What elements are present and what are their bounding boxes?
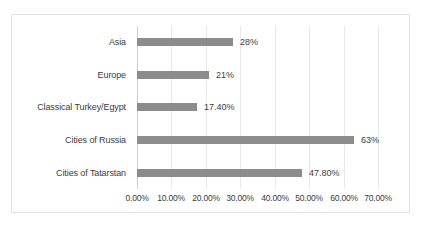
plot-area: 28% 21% 17.40% 63% 47.80% (137, 26, 378, 189)
bar-value-label: 17.40% (204, 102, 235, 112)
category-label: Cities of Russia (12, 124, 133, 157)
axis-tick-label: 20.00% (192, 193, 220, 203)
bar-value-label: 47.80% (309, 168, 340, 178)
category-label: Classical Turkey/Egypt (12, 91, 133, 124)
bar (137, 103, 197, 111)
category-label: Asia (12, 26, 133, 59)
axis-tick-label: 30.00% (226, 193, 254, 203)
bar-row: 63% (137, 124, 378, 157)
category-axis: Asia Europe Classical Turkey/Egypt Citie… (12, 26, 133, 189)
bar-value-label: 21% (216, 70, 234, 80)
axis-tick-label: 10.00% (157, 193, 185, 203)
category-label: Europe (12, 59, 133, 92)
axis-tick-label: 70.00% (364, 193, 392, 203)
gridline (378, 26, 379, 189)
bar (137, 38, 233, 46)
bar-value-label: 28% (240, 37, 258, 47)
axis-tick-label: 50.00% (295, 193, 323, 203)
bar (137, 71, 209, 79)
bar-value-label: 63% (361, 135, 379, 145)
value-axis: 0.00%10.00%20.00%30.00%40.00%50.00%60.00… (137, 193, 378, 207)
chart-plot-wrapper: Asia Europe Classical Turkey/Egypt Citie… (12, 15, 409, 212)
bar-row: 47.80% (137, 156, 378, 189)
bar-row: 17.40% (137, 91, 378, 124)
bar-row: 28% (137, 26, 378, 59)
axis-tick-label: 0.00% (125, 193, 148, 203)
bar-row: 21% (137, 59, 378, 92)
chart-frame: Asia Europe Classical Turkey/Egypt Citie… (11, 14, 410, 213)
axis-tick-label: 60.00% (330, 193, 358, 203)
axis-tick-label: 40.00% (261, 193, 289, 203)
bar-series: 28% 21% 17.40% 63% 47.80% (137, 26, 378, 189)
bar (137, 136, 354, 144)
bar (137, 169, 302, 177)
category-label: Cities of Tatarstan (12, 156, 133, 189)
